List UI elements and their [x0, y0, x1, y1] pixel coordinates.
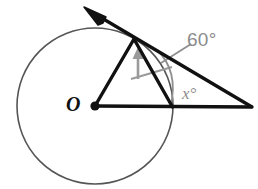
angle-label-x-degrees: x°	[182, 85, 196, 102]
tangent-arrow-head-icon	[84, 7, 106, 25]
angle-label-60-degrees: 60°	[187, 30, 217, 49]
geometry-canvas	[0, 0, 258, 189]
center-label-O: O	[66, 94, 80, 114]
geometry-figure: O 60° x°	[0, 0, 258, 189]
radius-segment	[95, 39, 134, 106]
center-point-dot	[90, 101, 99, 110]
